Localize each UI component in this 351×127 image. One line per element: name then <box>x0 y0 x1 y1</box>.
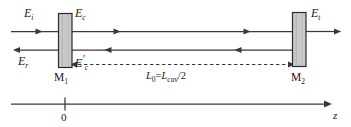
label-axis-z: z <box>333 110 337 121</box>
label-mirror-m2: M2 <box>291 72 305 86</box>
optical-cavity-figure: Ei Ec Et Er E′c M1 M2 L0=Lcav/2 0 z <box>0 0 351 127</box>
label-circulating-field: Ec <box>75 7 86 22</box>
label-mirror-m1: M1 <box>54 72 68 86</box>
mirror-m1-rect <box>59 14 73 68</box>
incident-field-subscript: i <box>31 13 33 22</box>
mirror-m2-symbol: M <box>291 71 301 83</box>
cavity-length-divisor: /2 <box>178 70 186 81</box>
circulating-field-subscript: c <box>82 13 85 22</box>
mirror-m2-subscript: 2 <box>301 77 305 86</box>
mirror-m1-symbol: M <box>54 71 64 83</box>
circulating-return-field-subscript: c <box>85 63 88 72</box>
reflected-field-subscript: r <box>25 61 28 70</box>
incident-beam-arrowhead <box>36 28 43 34</box>
mirror-m2-rect <box>293 13 307 67</box>
label-incident-field: Ei <box>24 7 33 22</box>
circulating-beam-arrowhead-right <box>244 28 251 34</box>
transmitted-beam-arrowhead <box>334 28 341 34</box>
mirror-m1-subscript: 1 <box>64 77 68 86</box>
backward-beam-group <box>13 47 292 53</box>
z-axis-group <box>11 98 332 111</box>
label-cavity-length: L0=Lcav/2 <box>146 71 186 84</box>
transmitted-field-subscript: t <box>318 13 320 22</box>
label-axis-origin: 0 <box>61 112 67 123</box>
cavity-length-rhs-subscript: cav <box>167 75 177 84</box>
return-beam-arrowhead-left <box>104 47 111 53</box>
label-circulating-return-field: E′c <box>75 53 88 72</box>
figure-canvas <box>0 0 351 127</box>
label-transmitted-field: Et <box>311 7 320 22</box>
dashed-roundtrip-group <box>70 62 295 68</box>
reflected-beam-arrowhead <box>13 47 20 53</box>
label-reflected-field: Er <box>18 55 28 70</box>
circulating-beam-arrowhead-left <box>114 28 121 34</box>
z-axis-arrowhead <box>324 101 332 108</box>
return-beam-arrowhead-right <box>234 47 241 53</box>
